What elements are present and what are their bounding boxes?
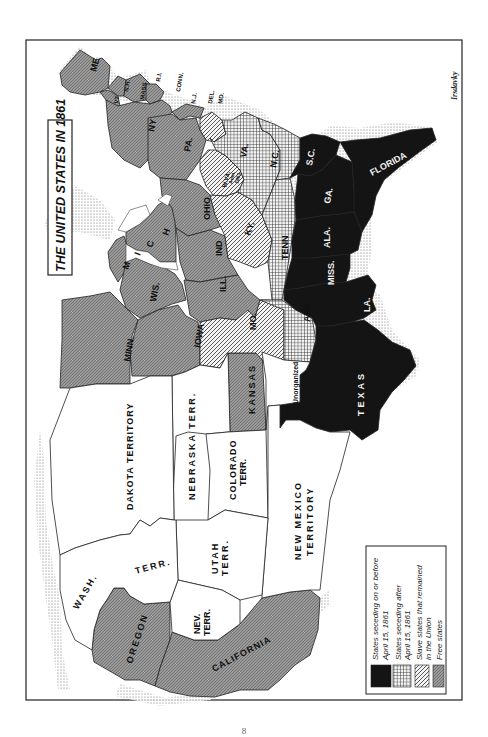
label-unorganized: Unorganized [292, 362, 300, 404]
label-tenn: TENN [280, 236, 290, 261]
legend-swatch-crosshatch [393, 665, 411, 687]
map-legend: States seceding on or before April 15, 1… [366, 546, 446, 694]
label-ark: ARK. [302, 300, 312, 322]
label-utah-1: UTAH [210, 542, 220, 574]
legend-text-3b: in the Union [424, 617, 433, 660]
legend-text-2b: April 15, 1861 [403, 611, 412, 661]
label-kansas: KANSAS [247, 364, 257, 414]
legend-swatch-solid [371, 665, 391, 687]
us-1861-map: THE UNITED STATES IN 1861 Irsdavky ME VT… [0, 0, 488, 737]
label-nebraska: NEBRASKA TERR. [187, 392, 197, 500]
label-colorado-2: TERR. [238, 459, 248, 486]
label-nev-1: NEV. [192, 614, 202, 634]
label-dakota: DAKOTA TERRITORY [125, 403, 135, 511]
label-colorado-1: COLORADO [228, 440, 238, 501]
label-utah-2: TERR. [220, 539, 230, 576]
label-newmexico-2: TERRITORY [305, 486, 315, 556]
page-number: 8 [242, 726, 247, 736]
legend-swatch-diagonal [415, 665, 429, 687]
label-ala: ALA. [322, 227, 332, 248]
label-ohio: OHIO [202, 197, 212, 220]
legend-text-2a: States seceding after [394, 585, 403, 660]
label-ny: NY [146, 118, 158, 132]
label-ill: ILL. [218, 276, 228, 292]
label-newmexico-1: NEW MEXICO [293, 481, 303, 560]
legend-text-4a: Free states [435, 620, 444, 660]
legend-text-1a: States seceding on or before [371, 557, 380, 660]
legend-text-3a: Slave states that remained [415, 565, 424, 660]
legend-swatch-free [433, 665, 444, 687]
map-title-box: THE UNITED STATES IN 1861 [48, 99, 72, 275]
map-title: THE UNITED STATES IN 1861 [54, 99, 68, 272]
label-mo: MO. [248, 313, 258, 330]
label-texas: TEXAS [356, 371, 366, 416]
label-ind: IND [214, 240, 224, 256]
label-miss: MISS. [326, 260, 336, 285]
cartographer-signature: Irsdavky [450, 71, 459, 101]
legend-item-free: Free states [433, 620, 444, 687]
legend-text-1b: April 15, 1861 [381, 611, 390, 661]
label-nev-2: TERR. [202, 609, 212, 636]
label-la: LA. [362, 298, 372, 313]
